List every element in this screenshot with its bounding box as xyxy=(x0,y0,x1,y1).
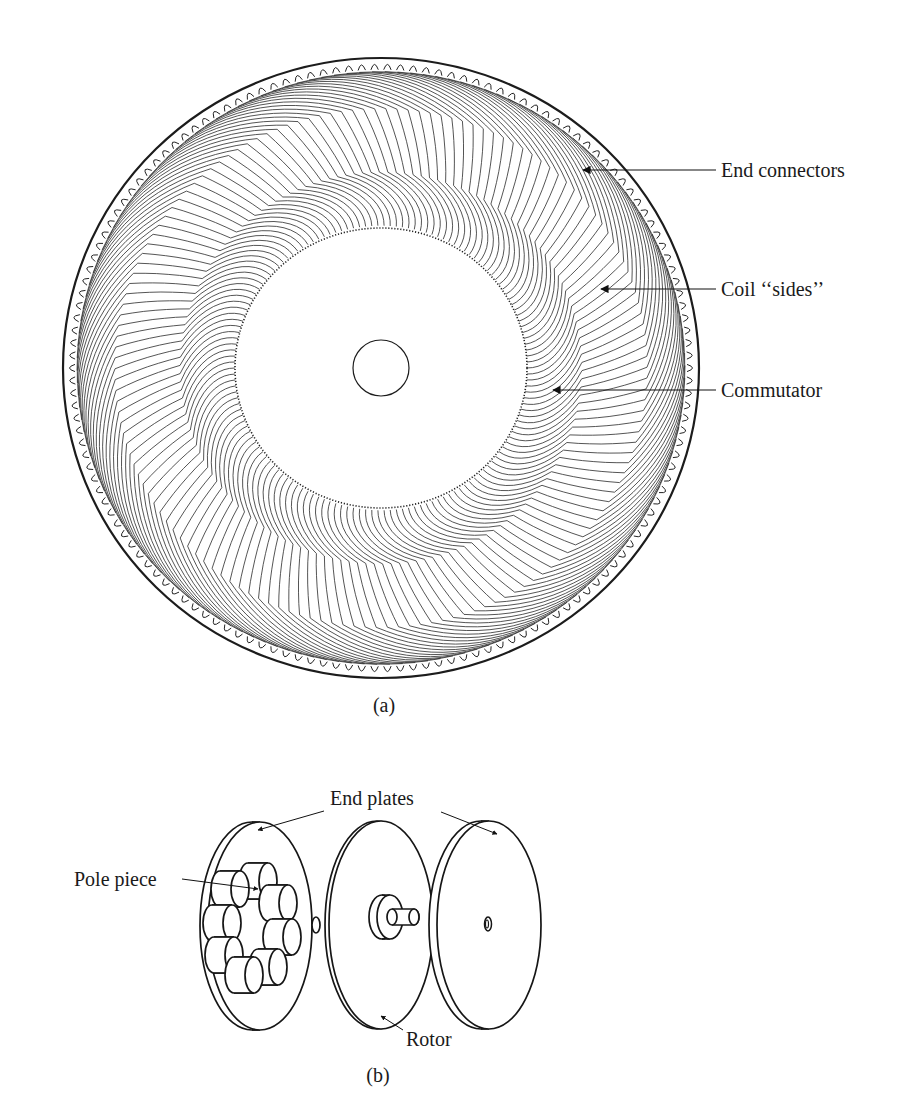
label-end-connectors: End connectors xyxy=(583,159,845,181)
label-commutator: Commutator xyxy=(553,379,822,401)
right-end-plate xyxy=(429,821,541,1029)
coil-sides-label: Coil ‘‘sides’’ xyxy=(721,278,824,300)
figure-a-printed-disc-armature xyxy=(63,58,699,678)
pole-piece-cylinder xyxy=(259,885,297,921)
left-end-plate xyxy=(200,822,320,1030)
pole-piece-cylinder xyxy=(211,871,249,907)
figure-b-exploded-motor xyxy=(200,821,541,1030)
end-connectors-label: End connectors xyxy=(721,159,845,181)
end-plates-label: End plates xyxy=(330,787,414,810)
rotor-label: Rotor xyxy=(406,1028,452,1050)
commutator-label: Commutator xyxy=(721,379,822,401)
commutator-ring xyxy=(235,228,527,508)
label-coil-sides: Coil ‘‘sides’’ xyxy=(601,278,824,300)
rotor-disc xyxy=(325,821,433,1029)
caption-a: (a) xyxy=(373,694,395,717)
arrow-end-plate-left xyxy=(258,811,324,830)
left-plate-stub xyxy=(312,917,320,933)
pole-piece-cylinder xyxy=(225,957,263,993)
motor-diagram: End connectors Coil ‘‘sides’’ Commutator… xyxy=(0,0,920,1096)
caption-b: (b) xyxy=(366,1064,389,1087)
pole-piece-cylinder xyxy=(203,905,241,941)
pole-piece-label: Pole piece xyxy=(74,868,157,891)
